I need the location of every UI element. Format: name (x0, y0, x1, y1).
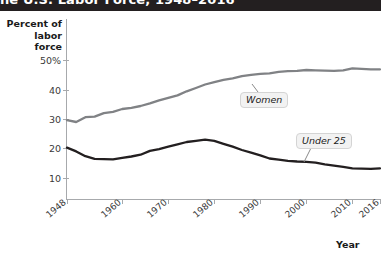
series-callout-under25: Under 25 (296, 133, 352, 149)
series-line-women (67, 68, 380, 122)
callout-leader-line (304, 148, 311, 162)
chart-root: he U.S. Labor Force, 1948–2016 Percent o… (0, 0, 381, 259)
series-layer (0, 0, 381, 259)
callout-leader-line (252, 84, 258, 92)
plot-area: 50% 40 30 20 10 1948 1960 1970 1980 1990… (0, 0, 381, 259)
series-callout-women: Women (240, 92, 288, 108)
